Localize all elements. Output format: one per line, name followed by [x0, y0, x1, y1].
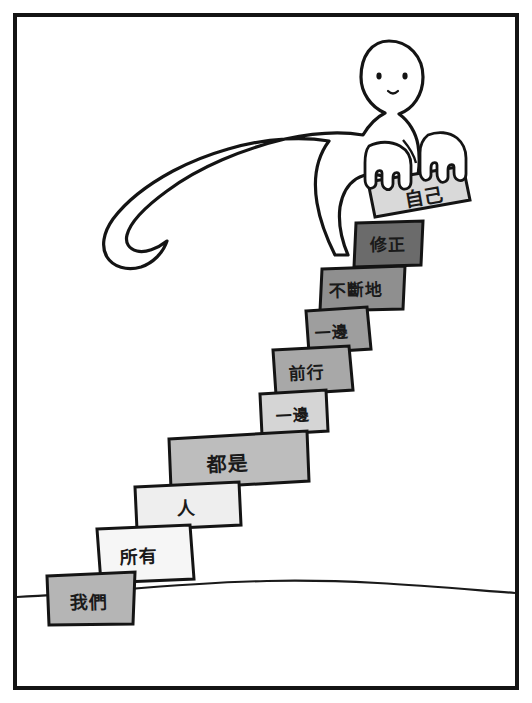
- step-block-1[interactable]: [47, 572, 135, 625]
- step-block-3[interactable]: [135, 482, 241, 530]
- step-block-4[interactable]: [169, 431, 309, 489]
- step-block-8[interactable]: [320, 266, 405, 311]
- step-block-9[interactable]: [354, 221, 423, 267]
- figure-eye-right: [402, 73, 407, 80]
- hand-left: [365, 142, 411, 189]
- hand-right: [420, 133, 466, 183]
- comic-frame: 修正 不斷地 一邊 前行 一邊 都是 人 所有 我們 自己: [13, 13, 519, 690]
- comic-artwork: [17, 17, 515, 686]
- step-block-5[interactable]: [260, 390, 328, 435]
- figure-eye-left: [376, 73, 381, 80]
- comic-panel-stage: 修正 不斷地 一邊 前行 一邊 都是 人 所有 我們 自己: [0, 0, 532, 703]
- step-block-6[interactable]: [273, 346, 353, 395]
